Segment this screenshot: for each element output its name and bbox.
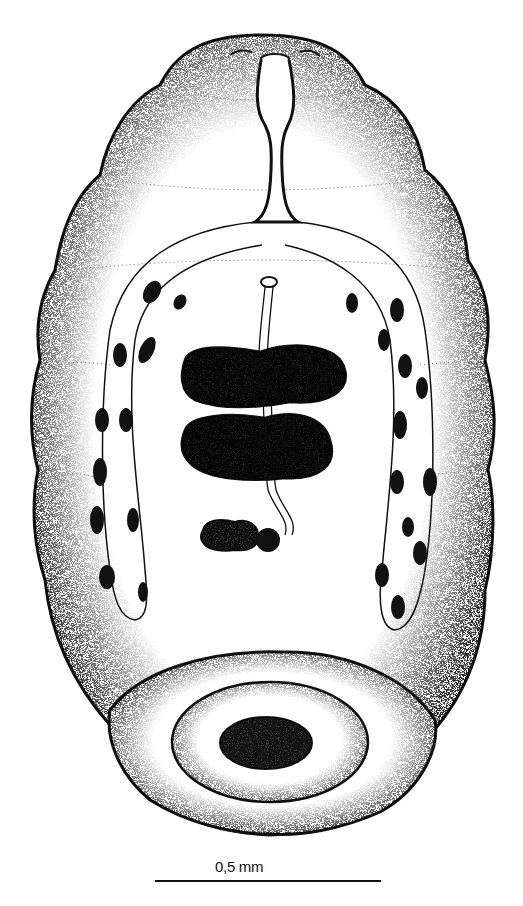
- genital-pore: [261, 277, 277, 287]
- anterior-testis: [182, 346, 346, 407]
- posterior-testis: [182, 414, 332, 479]
- ovary: [201, 520, 258, 551]
- ootype: [256, 528, 280, 552]
- scale-bar: [155, 880, 381, 882]
- scale-bar-label: 0,5 mm: [215, 858, 263, 875]
- flatworm-illustration: [0, 0, 523, 906]
- ventral-sucker-center: [220, 717, 312, 769]
